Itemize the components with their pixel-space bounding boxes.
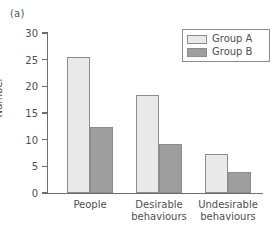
legend-swatch-group-b: [187, 48, 207, 57]
y-tick-label: 15: [8, 108, 38, 119]
bar: [228, 172, 251, 193]
y-tick-mark: [42, 59, 47, 60]
y-tick-label: 5: [8, 161, 38, 172]
y-tick-mark: [42, 192, 47, 193]
y-tick-label: 30: [8, 28, 38, 39]
x-axis-line: [47, 193, 263, 194]
legend-item-group-a: Group A: [187, 33, 265, 45]
legend-swatch-group-a: [187, 35, 207, 44]
bar: [136, 95, 159, 193]
bar: [159, 144, 182, 193]
legend: Group A Group B: [182, 29, 270, 62]
y-tick-mark: [42, 166, 47, 167]
y-axis-title: Number: [0, 77, 4, 117]
y-tick-label: 25: [8, 54, 38, 65]
bar: [67, 57, 90, 193]
bar: [90, 127, 113, 193]
y-tick-mark: [42, 112, 47, 113]
legend-item-group-b: Group B: [187, 46, 265, 58]
y-tick-label: 20: [8, 81, 38, 92]
panel-label: (a): [10, 8, 25, 19]
y-tick-mark: [42, 86, 47, 87]
y-tick-label: 10: [8, 134, 38, 145]
figure-panel-a: (a) Number 051015202530 PeopleDesirable …: [0, 0, 278, 235]
legend-label-group-b: Group B: [212, 47, 252, 57]
y-tick-label: 0: [8, 188, 38, 199]
bar: [205, 154, 228, 193]
x-axis-category-label: Undesirable behaviours: [183, 199, 273, 222]
y-tick-mark: [42, 139, 47, 140]
y-tick-mark: [42, 32, 47, 33]
legend-label-group-a: Group A: [212, 34, 252, 44]
